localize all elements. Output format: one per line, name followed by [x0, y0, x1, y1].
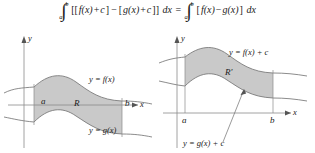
left-bracket-open: [[	[70, 4, 79, 15]
figure-left-region-R: x y a b R y = f(x) y = g(x)	[0, 30, 158, 153]
bracket-close-2: ]]	[151, 4, 160, 15]
integral-identity-formula: b ∫ a [[f(x)+c]−[g(x)+c]] dx = b ∫ a [f(…	[0, 2, 315, 20]
x-axis-label-right: x	[293, 107, 297, 117]
equals-sign: =	[174, 4, 182, 15]
figure-right-region-R-prime: x y a b R' y = f(x) + c y = g(x) + c	[155, 30, 315, 153]
figure-page: b ∫ a [[f(x)+c]−[g(x)+c]] dx = b ∫ a [f(…	[0, 0, 315, 153]
bound-label-a-right: a	[182, 115, 187, 125]
y-axis-label-right: y	[181, 33, 185, 43]
y-axis-arrowhead-right	[175, 36, 180, 43]
differential-dx-right: dx	[246, 4, 255, 15]
right-integral-lower-limit: a	[185, 13, 188, 20]
curve-label-f-left: y = f(x)	[89, 74, 115, 84]
left-integral-lower-limit: a	[59, 13, 62, 20]
f-of-x-term-left: f(x)	[79, 4, 93, 15]
left-integral-symbol: b ∫ a	[59, 2, 70, 20]
bound-label-b-left: b	[125, 98, 130, 108]
region-label-R-prime: R'	[225, 67, 232, 77]
bound-label-b-right: b	[270, 115, 275, 125]
plus-operator-2: +	[139, 4, 147, 15]
x-axis-arrowhead-right	[285, 111, 291, 116]
x-axis-arrowhead	[132, 103, 138, 108]
x-axis-label-left: x	[140, 99, 144, 109]
figure-left-svg	[0, 30, 158, 153]
y-axis-label-left: y	[28, 33, 32, 43]
y-axis-arrowhead	[22, 36, 27, 43]
region-label-R: R	[74, 98, 80, 108]
bound-label-a-left: a	[41, 96, 46, 106]
right-integral-symbol: b ∫ a	[185, 2, 196, 20]
g-of-x-term-left: g(x)	[123, 4, 139, 15]
g-of-x-term-right: g(x)	[222, 4, 238, 15]
curve-label-f-plus-c: y = f(x) + c	[229, 47, 268, 57]
curve-label-g-left: y = g(x)	[89, 125, 116, 135]
curve-label-g-plus-c: y = g(x) + c	[183, 138, 224, 148]
minus-operator-left: −	[110, 4, 118, 15]
leader-line-g-label	[223, 92, 243, 142]
f-of-x-term-right: f(x)	[201, 4, 215, 15]
differential-dx-left: dx	[162, 4, 171, 15]
bracket-close-3: ]	[239, 4, 244, 15]
